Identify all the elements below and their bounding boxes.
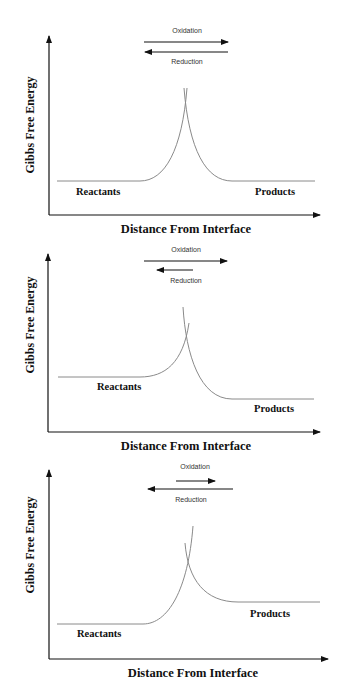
oxidation-label: Oxidation xyxy=(172,27,202,34)
x-axis-label: Distance From Interface xyxy=(121,439,251,454)
reactant-energy-curve xyxy=(58,323,189,377)
reactant-energy-curve xyxy=(57,526,193,624)
product-energy-curve xyxy=(184,88,315,181)
reduction-label: Reduction xyxy=(171,58,203,65)
oxidation-label: Oxidation xyxy=(180,463,210,470)
reactants-label: Reactants xyxy=(76,186,120,197)
products-label: Products xyxy=(254,403,294,414)
reactants-label: Reactants xyxy=(77,628,121,639)
panel-reduction-favored: Gibbs Free Energy Distance From Interfac… xyxy=(0,460,345,699)
energy-diagram-3 xyxy=(0,460,345,699)
energy-diagram-1 xyxy=(0,0,345,235)
product-energy-curve xyxy=(183,307,314,399)
products-label: Products xyxy=(250,608,290,619)
x-axis-label: Distance From Interface xyxy=(128,666,258,681)
panel-equilibrium: Gibbs Free Energy Distance From Interfac… xyxy=(0,0,345,235)
product-energy-curve xyxy=(185,543,320,602)
reactant-energy-curve xyxy=(57,88,187,181)
products-label: Products xyxy=(255,186,295,197)
panel-oxidation-favored: Gibbs Free Energy Distance From Interfac… xyxy=(0,235,345,460)
reduction-label: Reduction xyxy=(175,496,207,503)
reduction-label: Reduction xyxy=(170,277,202,284)
energy-diagram-2 xyxy=(0,235,345,460)
y-axis-label: Gibbs Free Energy xyxy=(23,76,38,173)
oxidation-label: Oxidation xyxy=(171,246,201,253)
y-axis-label: Gibbs Free Energy xyxy=(23,496,38,593)
reactants-label: Reactants xyxy=(97,381,141,392)
y-axis-label: Gibbs Free Energy xyxy=(23,276,38,373)
